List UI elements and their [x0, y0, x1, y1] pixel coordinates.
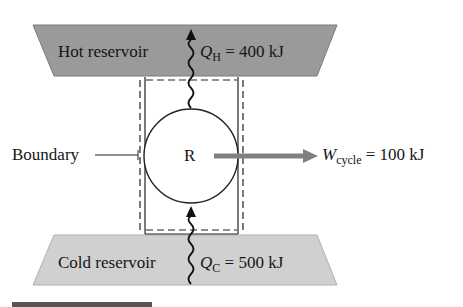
caption-bar	[12, 302, 152, 307]
work-arrow-head	[303, 149, 318, 163]
work-subscript: cycle	[336, 153, 361, 167]
cold-heat-label: QC = 500 kJ	[200, 254, 283, 271]
cold-reservoir-label: Cold reservoir	[58, 254, 156, 271]
cold-heat-symbol: Q	[200, 253, 212, 272]
hot-heat-value: = 400 kJ	[225, 42, 284, 61]
hot-heat-subscript: H	[212, 50, 221, 64]
hot-heat-label: QH = 400 kJ	[200, 43, 284, 60]
work-symbol: W	[322, 145, 336, 164]
cold-heat-flow-arrowhead	[186, 206, 196, 217]
boundary-label: Boundary	[12, 146, 79, 163]
cold-heat-subscript: C	[212, 261, 220, 275]
work-label: Wcycle = 100 kJ	[322, 146, 424, 163]
hot-reservoir-label: Hot reservoir	[58, 43, 148, 60]
work-value: = 100 kJ	[366, 145, 425, 164]
cold-heat-value: = 500 kJ	[225, 253, 284, 272]
device-label: R	[184, 147, 195, 164]
hot-heat-symbol: Q	[200, 42, 212, 61]
